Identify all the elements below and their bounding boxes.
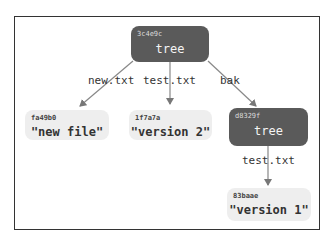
node-hash: 3c4e9c [137,30,162,38]
edge-label-new-txt: new.txt [88,74,134,87]
node-label: tree [131,42,209,56]
node-hash: d8329f [235,112,260,120]
edge-label-test-txt: test.txt [143,74,196,87]
blob-node-version-1: 83baae "version 1" [227,188,311,221]
blob-node-new-file: fa49b0 "new file" [25,110,109,140]
edge-label-bak: bak [220,74,240,87]
node-label: "new file" [25,125,109,139]
node-label: "version 1" [227,203,311,217]
tree-node-bak: d8329f tree [229,108,308,146]
edge-label-bak-test-txt: test.txt [242,154,295,167]
node-label: "version 2" [129,125,212,139]
node-hash: fa49b0 [31,114,56,122]
blob-node-version-2: 1f7a7a "version 2" [129,110,212,140]
node-hash: 1f7a7a [135,114,160,122]
tree-node-root: 3c4e9c tree [131,26,209,62]
node-hash: 83baae [233,192,258,200]
node-label: tree [229,124,308,138]
